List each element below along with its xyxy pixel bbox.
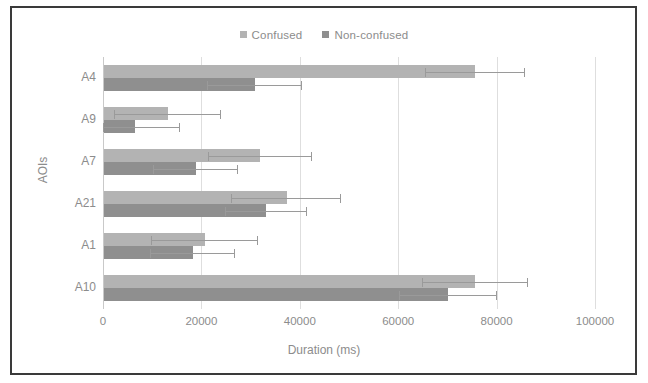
bar-A10-confused [104,275,475,288]
error-bar-cap [103,123,104,132]
error-bar-line [399,295,496,296]
y-tick-label-A7: A7 [81,154,96,168]
gridline [398,57,399,309]
error-bar-cap [257,236,258,245]
y-tick-label-A1: A1 [81,238,96,252]
error-bar-line [150,253,234,254]
error-bar-cap [422,278,423,287]
error-bar-cap [425,68,426,77]
x-tick-label: 0 [100,315,106,327]
error-bar-cap [150,249,151,258]
x-tick-label: 40000 [284,315,316,327]
legend-swatch-icon [240,31,247,38]
plot-area [103,57,595,309]
error-bar-cap [237,165,238,174]
y-tick-label-A10: A10 [75,280,96,294]
error-bar-cap [399,291,400,300]
legend-label: Confused [252,29,303,41]
y-tick-label-A4: A4 [81,70,96,84]
x-axis-tick-labels: 020000400006000080000100000 [103,315,595,333]
legend-label: Non-confused [334,29,408,41]
error-bar-line [207,85,300,86]
x-tick-label: 60000 [382,315,414,327]
legend-swatch-icon [322,31,329,38]
chart-legend: ConfusedNon-confused [0,24,648,43]
error-bar-cap [231,194,232,203]
y-tick-label-A21: A21 [75,196,96,210]
y-axis-title: AOIs [36,120,50,220]
x-tick-label: 100000 [576,315,614,327]
error-bar-cap [114,110,115,119]
error-bar-line [225,211,306,212]
chart-figure: ConfusedNon-confused AOIs A4A9A7A21A1A10… [0,0,648,383]
error-bar-cap [306,207,307,216]
error-bar-cap [207,81,208,90]
gridline [595,57,596,309]
error-bar-cap [524,68,525,77]
error-bar-line [151,240,257,241]
error-bar-line [208,156,311,157]
x-tick-label: 20000 [185,315,217,327]
error-bar-cap [234,249,235,258]
error-bar-cap [179,123,180,132]
error-bar-cap [496,291,497,300]
error-bar-cap [225,207,226,216]
error-bar-cap [340,194,341,203]
error-bar-cap [151,236,152,245]
error-bar-cap [208,152,209,161]
legend-item[interactable]: Non-confused [322,25,408,43]
y-axis-tick-labels: A4A9A7A21A1A10 [50,57,96,309]
error-bar-line [425,72,523,73]
legend-item[interactable]: Confused [240,25,303,43]
y-tick-label-A9: A9 [81,112,96,126]
gridline [497,57,498,309]
error-bar-cap [220,110,221,119]
error-bar-cap [527,278,528,287]
error-bar-line [153,169,238,170]
x-axis-title: Duration (ms) [0,343,648,357]
error-bar-line [114,114,220,115]
error-bar-line [422,282,527,283]
error-bar-cap [311,152,312,161]
gridline [201,57,202,309]
x-tick-label: 80000 [481,315,513,327]
error-bar-cap [153,165,154,174]
error-bar-line [103,127,179,128]
error-bar-line [231,198,339,199]
bar-A4-confused [104,65,475,78]
gridline [300,57,301,309]
error-bar-cap [301,81,302,90]
y-axis-line [103,57,104,309]
bar-A10-non-confused [104,288,448,301]
